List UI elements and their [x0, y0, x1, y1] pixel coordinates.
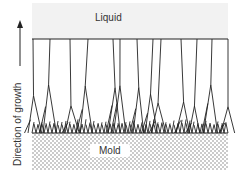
liquid-region — [32, 3, 228, 39]
growth-arrow-icon — [17, 20, 23, 66]
mold-label: Mold — [90, 144, 130, 157]
mold-region — [32, 133, 228, 170]
columnar-grains — [25, 39, 235, 133]
growth-direction-label: Direction of growth — [12, 83, 23, 166]
liquid-label: Liquid — [95, 12, 122, 23]
